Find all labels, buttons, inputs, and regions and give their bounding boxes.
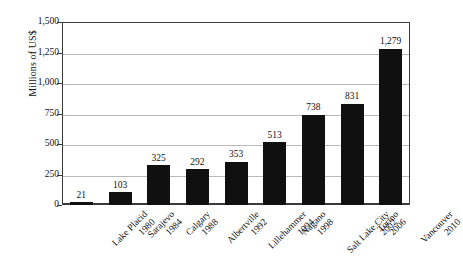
y-axis-tick-label: 1,250 <box>0 48 59 58</box>
y-axis-tick-label: 250 <box>0 170 59 180</box>
bar-group: 513 <box>263 22 286 205</box>
bar <box>379 49 402 205</box>
bar-group: 738 <box>302 22 325 205</box>
bar-group: 292 <box>186 22 209 205</box>
bar <box>225 162 248 205</box>
y-axis-tick-label: 750 <box>0 109 59 119</box>
bar <box>109 192 132 205</box>
y-axis-tick-label: 500 <box>0 139 59 149</box>
bar-group: 21 <box>70 22 93 205</box>
bar-group: 1,279 <box>379 22 402 205</box>
y-axis-tick-label: 1,500 <box>0 17 59 27</box>
bar-series: 211033252923535137388311,279 <box>62 22 410 205</box>
bar <box>186 169 209 205</box>
x-axis-category-label: Calgary1988 <box>183 209 220 246</box>
bar-value-label: 738 <box>306 103 320 113</box>
y-axis-tick-label: 0 <box>0 200 59 210</box>
bar-group: 325 <box>147 22 170 205</box>
y-axis-tick-label: 1,000 <box>0 78 59 88</box>
x-axis-category-label: Albertville1992 <box>225 209 270 254</box>
bar <box>302 115 325 205</box>
bar <box>341 104 364 205</box>
bar <box>70 202 93 205</box>
bar-group: 103 <box>109 22 132 205</box>
bar-value-label: 513 <box>268 131 282 141</box>
bar-value-label: 353 <box>229 150 243 160</box>
bar-value-label: 21 <box>77 191 87 201</box>
y-axis-tick-mark <box>57 205 62 206</box>
bar-value-label: 1,279 <box>380 37 401 47</box>
bar <box>263 142 286 205</box>
bar-group: 353 <box>225 22 248 205</box>
bar-value-label: 103 <box>113 181 127 191</box>
bar-value-label: 831 <box>345 92 359 102</box>
x-axis-category-labels: Lake Placid1980Sarajevo1984Calgary1988Al… <box>62 207 410 267</box>
bar-group: 831 <box>341 22 364 205</box>
x-axis-category-label: Sarajevo1984 <box>146 209 185 248</box>
bar <box>147 165 170 205</box>
bar-value-label: 325 <box>152 154 166 164</box>
bar-value-label: 292 <box>190 158 204 168</box>
x-axis-category-label: Vancouver2010 <box>419 209 463 253</box>
